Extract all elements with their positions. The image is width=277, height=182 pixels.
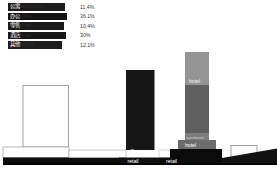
hotel-podium-label: hotel bbox=[185, 142, 196, 148]
hotel-podium bbox=[178, 140, 216, 149]
legend-label-others: 其他others bbox=[10, 40, 34, 50]
left-retail-base bbox=[3, 158, 119, 164]
office-tower-label: office bbox=[128, 148, 140, 154]
hotel-upper-label: hotel bbox=[189, 78, 200, 84]
hotel-base-dark bbox=[170, 149, 222, 158]
legend-label-office: 办公office bbox=[10, 12, 32, 22]
legend-value-others: 12.1% bbox=[80, 41, 95, 51]
legend-row-apartment[interactable]: 公寓apartment 11.4% bbox=[8, 2, 138, 12]
legend-label-apartment: 公寓apartment bbox=[10, 2, 43, 12]
legend-label-retail: 零售retail bbox=[10, 21, 31, 31]
connector-band bbox=[69, 150, 126, 158]
hotel-tower-lower bbox=[185, 85, 209, 133]
legend: 公寓apartment 11.4% 办公office 36.1% 零售retai… bbox=[8, 2, 138, 50]
massing-diagram-page: office retail retail hotel apartment hot… bbox=[0, 0, 277, 182]
office-tower bbox=[126, 70, 155, 150]
legend-row-office[interactable]: 办公office 36.1% bbox=[8, 12, 138, 22]
legend-label-hotel: 酒店hotel bbox=[10, 31, 31, 41]
legend-row-hotel[interactable]: 酒店hotel 30% bbox=[8, 31, 138, 41]
ground-line bbox=[3, 163, 277, 165]
legend-row-others[interactable]: 其他others 12.1% bbox=[8, 40, 138, 50]
left-outline-block bbox=[23, 86, 69, 148]
left-podium-white bbox=[3, 147, 69, 158]
apartment-band-label: apartment bbox=[186, 135, 204, 140]
legend-row-retail[interactable]: 零售retail 10.4% bbox=[8, 21, 138, 31]
